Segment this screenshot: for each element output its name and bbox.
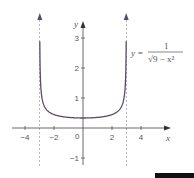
chart: −4−224−1123 x y 0 y = 1 √9 − x² [0, 0, 194, 178]
y-tick-label: −1 [70, 154, 80, 163]
y-axis-arrow-icon [81, 21, 86, 28]
y-tick-label: 2 [75, 64, 80, 73]
y-axis-label: y [73, 19, 78, 29]
equation-numerator: 1 [164, 41, 169, 51]
x-axis-arrow-icon [164, 126, 171, 131]
x-axis-label: x [165, 133, 170, 143]
ticks: −4−224−1123 [20, 34, 143, 163]
x-tick-label: 2 [110, 133, 115, 142]
axes [12, 21, 171, 165]
x-tick-label: −2 [49, 133, 59, 142]
equation-annotation: y = 1 √9 − x² [130, 41, 183, 64]
curve-arrow-left-icon [37, 13, 42, 20]
x-tick-label: 4 [139, 133, 144, 142]
footer-bar [155, 173, 194, 178]
origin-label: 0 [75, 132, 80, 141]
x-tick-label: −4 [20, 133, 30, 142]
y-tick-label: 1 [75, 94, 80, 103]
equation-denominator: √9 − x² [148, 54, 175, 64]
y-tick-label: 3 [75, 34, 80, 43]
equation-lhs: y = [130, 48, 143, 58]
curve-arrow-right-icon [124, 13, 129, 20]
